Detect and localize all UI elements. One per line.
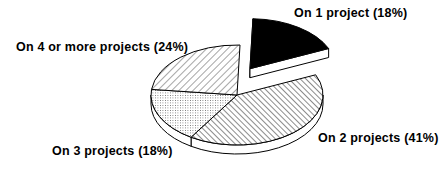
label-on-3-projects: On 3 projects (18%) bbox=[52, 144, 173, 158]
slice-on-1-project bbox=[250, 19, 329, 78]
label-on-4-or-more-projects: On 4 or more projects (24%) bbox=[16, 40, 188, 54]
label-on-1-project: On 1 project (18%) bbox=[294, 6, 407, 20]
pie-chart: On 1 project (18%) On 4 or more projects… bbox=[0, 0, 448, 175]
label-on-2-projects: On 2 projects (41%) bbox=[318, 131, 439, 145]
